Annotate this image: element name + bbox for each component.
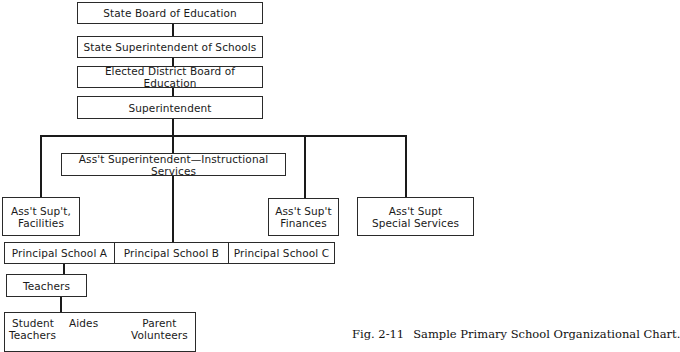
asst-facilities-box: Ass't Sup't, Facilities — [2, 197, 80, 236]
asst-special-label-2: Special Services — [372, 217, 459, 229]
principal-c-label: Principal School C — [234, 247, 329, 259]
parent-volunteers-label-1: Parent — [131, 317, 188, 329]
principal-school-b: Principal School B — [115, 243, 228, 263]
asst-instructional-box: Ass't Superintendent—Instructional Servi… — [61, 153, 286, 176]
figure-title: Sample Primary School Organizational Cha… — [413, 327, 680, 341]
connector-line — [40, 135, 42, 197]
aides-label: Aides — [69, 317, 98, 329]
principal-school-c: Principal School C — [229, 243, 334, 263]
state-board-box: State Board of Education — [77, 2, 263, 24]
asst-facilities-label-2: Facilities — [18, 217, 64, 229]
student-teachers: Student Teachers — [9, 317, 56, 341]
asst-finances-box: Ass't Sup't Finances — [268, 198, 339, 236]
principal-b-label: Principal School B — [124, 247, 219, 259]
asst-finances-label-2: Finances — [280, 217, 326, 229]
district-board-label: Elected District Board of Education — [78, 65, 262, 89]
connector-line — [172, 176, 174, 242]
figure-number: Fig. 2-11 — [352, 327, 404, 341]
asst-special-label-1: Ass't Supt — [389, 205, 443, 217]
principals-row: Principal School A Principal School B Pr… — [4, 242, 335, 264]
state-superintendent-box: State Superintendent of Schools — [77, 36, 263, 58]
superintendent-box: Superintendent — [77, 96, 263, 119]
superintendent-label: Superintendent — [129, 102, 212, 114]
connector-line — [405, 135, 407, 197]
asst-facilities-label-1: Ass't Sup't, — [11, 205, 71, 217]
asst-instructional-label: Ass't Superintendent—Instructional Servi… — [62, 153, 285, 177]
student-teachers-label-1: Student — [9, 317, 56, 329]
connector-line — [172, 24, 174, 36]
bus-line — [40, 135, 406, 137]
connector-line — [172, 88, 174, 96]
support-staff-box: Student Teachers Aides Parent Volunteers — [4, 312, 196, 352]
parent-volunteers: Parent Volunteers — [131, 317, 188, 341]
district-board-box: Elected District Board of Education — [77, 66, 263, 88]
parent-volunteers-label-2: Volunteers — [131, 329, 188, 341]
figure-caption: Fig. 2-11Sample Primary School Organizat… — [352, 327, 680, 341]
state-board-label: State Board of Education — [103, 7, 236, 19]
asst-special-services-box: Ass't Supt Special Services — [357, 197, 474, 236]
student-teachers-label-2: Teachers — [9, 329, 56, 341]
asst-finances-label-1: Ass't Sup't — [275, 205, 332, 217]
state-superintendent-label: State Superintendent of Schools — [84, 41, 257, 53]
teachers-label: Teachers — [23, 280, 70, 292]
connector-line — [60, 297, 62, 312]
teachers-box: Teachers — [6, 274, 87, 297]
principal-school-a: Principal School A — [5, 243, 114, 263]
aides: Aides — [69, 317, 98, 329]
principal-a-label: Principal School A — [12, 247, 107, 259]
connector-line — [63, 264, 65, 274]
connector-line — [304, 135, 306, 198]
